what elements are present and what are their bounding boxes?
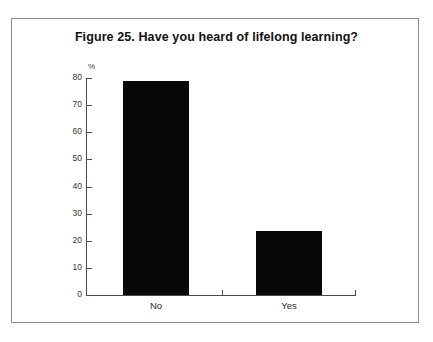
bar-yes xyxy=(256,231,322,295)
figure-root: Figure 25. Have you heard of lifelong le… xyxy=(0,0,433,342)
x-axis-label-no: No xyxy=(123,300,189,311)
y-axis-tick-label: 60 xyxy=(60,127,82,136)
y-axis-tick xyxy=(87,78,92,79)
y-axis-tick-label: 50 xyxy=(60,154,82,163)
y-axis-tick xyxy=(87,241,92,242)
x-axis-right-cap xyxy=(355,290,356,295)
y-axis-unit-label: % xyxy=(88,62,95,71)
y-axis-tick-label: 30 xyxy=(60,209,82,218)
y-axis-tick xyxy=(87,268,92,269)
x-axis-line xyxy=(86,295,356,296)
y-axis-tick-label: 0 xyxy=(60,290,82,299)
y-axis-tick-label: 80 xyxy=(60,73,82,82)
x-axis-label-yes: Yes xyxy=(256,300,322,311)
plot-area: % 01020304050607080 NoYes xyxy=(0,0,433,342)
y-axis-tick xyxy=(87,295,92,296)
y-axis-tick xyxy=(87,214,92,215)
y-axis-tick-label: 10 xyxy=(60,263,82,272)
y-axis-tick xyxy=(87,132,92,133)
bar-no xyxy=(123,81,189,295)
y-axis-tick-label: 20 xyxy=(60,236,82,245)
y-axis-tick xyxy=(87,159,92,160)
y-axis-tick xyxy=(87,105,92,106)
y-axis-tick-label: 40 xyxy=(60,182,82,191)
y-axis-tick-label: 70 xyxy=(60,100,82,109)
x-axis-mid-tick xyxy=(222,290,223,295)
y-axis-tick xyxy=(87,187,92,188)
